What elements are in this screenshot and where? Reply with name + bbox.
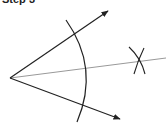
upper-ray [10, 11, 108, 78]
lower-ray [10, 78, 120, 119]
construction-diagram [0, 0, 166, 128]
main-arc [66, 20, 86, 122]
